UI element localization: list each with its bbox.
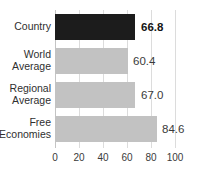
category-label-regional-average: Regional Average (0, 83, 51, 106)
category-label-country: Country (0, 21, 51, 33)
bar-row: 84.6 (55, 116, 175, 142)
x-tick-label: 80 (145, 152, 156, 163)
bar-row: 67.0 (55, 82, 175, 108)
bar-world-average[interactable] (55, 48, 128, 74)
category-label-world-average: World Average (0, 49, 51, 72)
bar-value-country: 66.8 (141, 14, 163, 40)
bar-value-regional-average: 67.0 (141, 82, 163, 108)
bar-free-economies[interactable] (55, 116, 157, 142)
category-label-line: Average (0, 61, 51, 73)
x-tick-label: 100 (167, 152, 184, 163)
x-axis: 0 20 40 60 80 100 (55, 152, 175, 168)
category-label-line: World (0, 49, 51, 61)
bar-regional-average[interactable] (55, 82, 135, 108)
bar-chart: 66.8 60.4 67.0 84.6 Country World Averag… (0, 0, 200, 178)
plot-area: 66.8 60.4 67.0 84.6 (55, 10, 175, 148)
x-tick-label: 60 (121, 152, 132, 163)
bar-value-free-economies: 84.6 (162, 116, 184, 142)
category-label-line: Economies (0, 129, 51, 141)
bar-value-world-average: 60.4 (133, 48, 155, 74)
bars-layer: 66.8 60.4 67.0 84.6 (55, 10, 175, 148)
x-tick-label: 0 (52, 152, 58, 163)
bar-row: 60.4 (55, 48, 175, 74)
category-label-free-economies: Free Economies (0, 117, 51, 140)
x-tick-label: 40 (97, 152, 108, 163)
category-label-line: Average (0, 95, 51, 107)
bar-row: 66.8 (55, 14, 175, 40)
category-label-line: Free (0, 117, 51, 129)
bar-country[interactable] (55, 14, 135, 40)
x-tick-label: 20 (73, 152, 84, 163)
category-label-line: Country (0, 21, 51, 33)
category-label-line: Regional (0, 83, 51, 95)
